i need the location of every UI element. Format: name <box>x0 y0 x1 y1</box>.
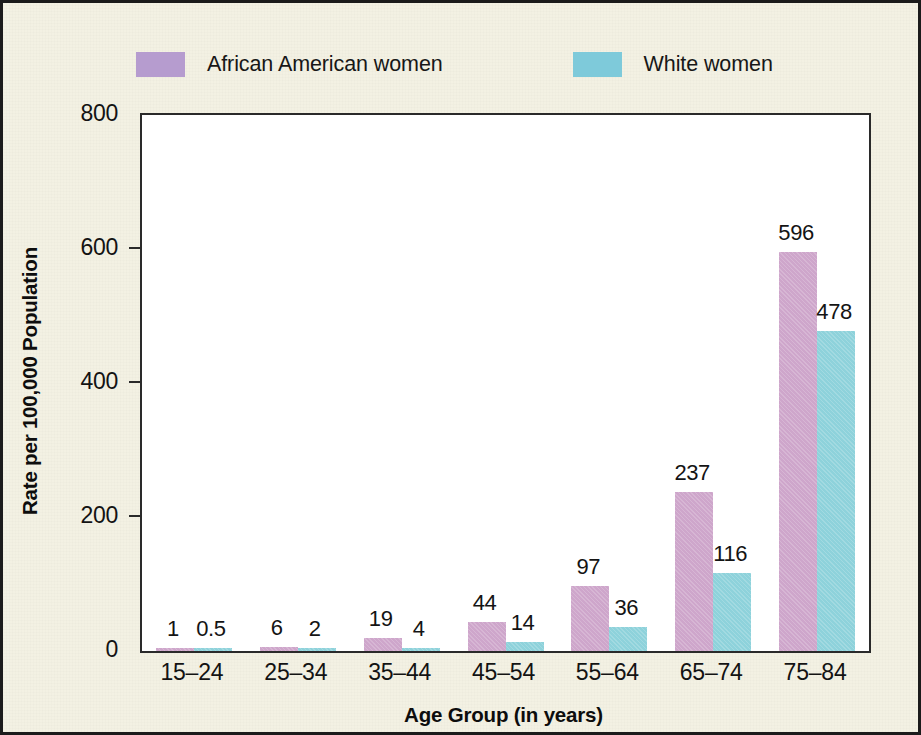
bar-white-women <box>506 642 544 651</box>
legend-swatch-icon-series-1 <box>136 52 185 77</box>
bar-white-women <box>713 573 751 651</box>
y-axis-tick-label: 800 <box>8 100 118 127</box>
bar-white-women <box>402 648 440 651</box>
chart-legend: African American women White women <box>136 47 773 81</box>
legend-label-series-2: White women <box>644 52 773 77</box>
bar-white-women <box>609 627 647 651</box>
plot-inner-canvas <box>142 115 869 651</box>
y-axis-tick-label: 400 <box>8 368 118 395</box>
bar-african-american-women <box>156 648 194 651</box>
y-axis-tick-label: 600 <box>8 234 118 261</box>
legend-item-african-american-women: African American women <box>136 52 443 77</box>
bar-value-label: 237 <box>647 460 737 486</box>
y-axis-tick-mark <box>129 247 140 249</box>
legend-label-series-1: African American women <box>207 52 443 77</box>
bar-value-label: 478 <box>789 299 879 325</box>
bar-value-label: 116 <box>685 541 775 567</box>
y-axis-tick-mark <box>129 381 140 383</box>
y-axis-tick-label: 200 <box>8 502 118 529</box>
bar-african-american-women <box>260 647 298 651</box>
bar-white-women <box>817 331 855 651</box>
bar-value-label: 4 <box>374 616 464 642</box>
legend-item-white-women: White women <box>573 52 773 77</box>
bar-value-label: 596 <box>751 220 841 246</box>
bar-value-label: 97 <box>543 554 633 580</box>
chart-figure: African American women White women Rate … <box>0 0 921 735</box>
legend-swatch-icon-series-2 <box>573 52 622 77</box>
y-axis-tick-mark <box>129 515 140 517</box>
x-axis-title: Age Group (in years) <box>140 703 867 727</box>
y-axis-tick-label: 0 <box>8 636 118 663</box>
bar-value-label: 14 <box>478 610 568 636</box>
bar-white-women <box>194 648 232 651</box>
x-axis-tick-label: 75–84 <box>745 659 885 686</box>
bar-white-women <box>298 648 336 651</box>
plot-area <box>140 113 871 653</box>
bar-african-american-women <box>675 492 713 651</box>
bar-value-label: 36 <box>581 595 671 621</box>
